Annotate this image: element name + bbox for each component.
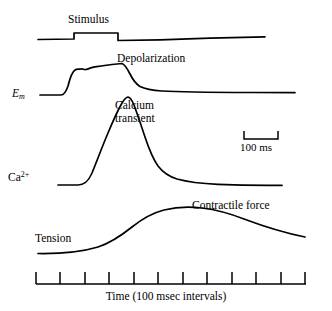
contractile-force-label: Contractile force <box>192 199 270 212</box>
depolarization-label: Depolarization <box>117 52 185 65</box>
axis-ticks <box>36 272 305 284</box>
time-axis <box>36 272 306 284</box>
membrane-potential-trace <box>40 64 295 96</box>
em-subscript: m <box>19 92 25 101</box>
membrane-potential-label: Em <box>12 87 25 102</box>
calcium-ion-symbol: Ca <box>8 171 21 183</box>
calcium-label-line1: Calcium <box>115 99 154 111</box>
time-axis-label: Time (100 msec intervals) <box>0 290 332 303</box>
calcium-ion-charge: 2+ <box>21 170 30 179</box>
figure-container: Stimulus Depolarization Em Calciumtransi… <box>0 0 332 311</box>
calcium-transient-label: Calciumtransient <box>115 99 155 125</box>
scale-bar-label: 100 ms <box>240 141 272 153</box>
calcium-ion-label: Ca2+ <box>8 171 29 184</box>
em-symbol: E <box>12 87 19 99</box>
scale-bar <box>244 131 278 139</box>
stimulus-trace <box>38 33 265 41</box>
trace-canvas <box>0 0 332 311</box>
tension-trace <box>38 207 305 253</box>
stimulus-label: Stimulus <box>68 13 109 26</box>
calcium-label-line2: transient <box>115 112 155 124</box>
tension-label: Tension <box>35 232 71 245</box>
